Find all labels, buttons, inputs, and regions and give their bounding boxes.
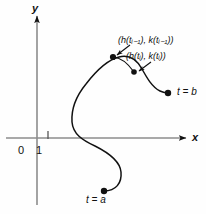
endpoint-a-label: t = a	[86, 195, 106, 205]
parametric-curve-figure: y x 0 1 (h(tᵢ₋₁), k(tᵢ₋₁)) (h(tᵢ), k(tᵢ)…	[0, 0, 206, 214]
origin-label: 0	[18, 145, 24, 156]
curve-plot-canvas	[0, 0, 206, 214]
x-axis-label: x	[192, 132, 198, 143]
x-tick-label-1: 1	[36, 145, 42, 156]
partition-point-current-marker	[131, 69, 137, 75]
y-axis-label: y	[32, 3, 38, 14]
partition-point-prev-marker	[110, 54, 116, 60]
partition-point-prev-label: (h(tᵢ₋₁), k(tᵢ₋₁))	[118, 36, 173, 45]
endpoint-b-label: t = b	[177, 87, 197, 97]
endpoint-b-marker	[165, 90, 171, 96]
partition-point-current-label: (h(tᵢ), k(tᵢ))	[126, 52, 166, 61]
parametric-curve	[72, 56, 167, 191]
